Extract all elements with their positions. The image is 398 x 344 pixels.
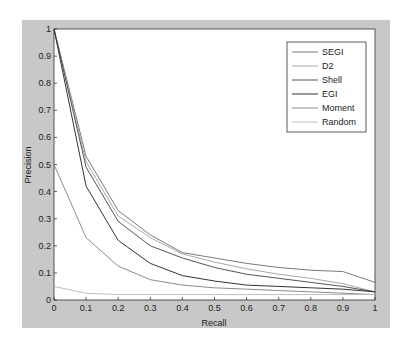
precision-recall-chart: 00.10.20.30.40.50.60.70.80.9100.10.20.30…	[0, 0, 398, 344]
y-tick-label: 0.7	[38, 105, 51, 115]
x-tick-label: 0.6	[240, 303, 253, 313]
y-tick-label: 0.9	[38, 51, 51, 61]
x-tick-label: 1	[372, 303, 377, 313]
x-tick-label: 0.3	[144, 303, 157, 313]
x-axis-label: Recall	[201, 318, 226, 328]
x-tick-label: 0.1	[80, 303, 93, 313]
x-tick-label: 0.9	[337, 303, 350, 313]
y-tick-label: 0.4	[38, 187, 51, 197]
y-tick-label: 0.2	[38, 241, 51, 251]
y-axis-label: Precision	[23, 146, 33, 183]
y-tick-label: 0.1	[38, 268, 51, 278]
legend-label-segi: SEGI	[322, 47, 344, 57]
legend-label-shell: Shell	[322, 75, 342, 85]
x-tick-label: 0.2	[112, 303, 125, 313]
x-tick-label: 0	[51, 303, 56, 313]
x-tick-label: 0.5	[208, 303, 221, 313]
y-tick-label: 0	[46, 295, 51, 305]
x-tick-label: 0.7	[272, 303, 285, 313]
y-tick-label: 1	[46, 24, 51, 34]
legend-label-egi: EGI	[322, 89, 338, 99]
y-tick-label: 0.3	[38, 214, 51, 224]
y-tick-label: 0.6	[38, 132, 51, 142]
y-tick-label: 0.8	[38, 78, 51, 88]
legend-label-moment: Moment	[322, 103, 355, 113]
x-tick-label: 0.4	[176, 303, 189, 313]
legend-label-d2: D2	[322, 61, 334, 71]
x-tick-label: 0.8	[305, 303, 318, 313]
y-tick-label: 0.5	[38, 160, 51, 170]
legend: SEGID2ShellEGIMomentRandom	[287, 42, 366, 132]
legend-label-random: Random	[322, 117, 356, 127]
